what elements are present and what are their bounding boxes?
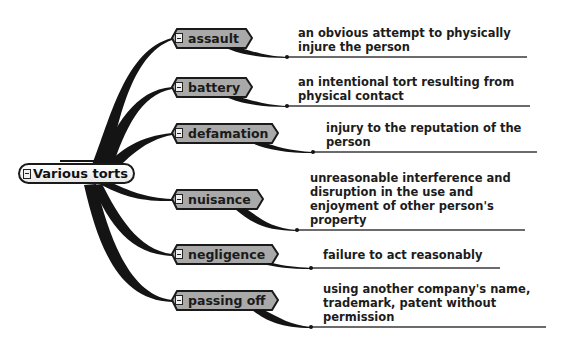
- collapse-minus-icon[interactable]: [175, 82, 183, 92]
- branch-node-battery[interactable]: battery: [172, 78, 252, 97]
- definition-line: an obvious attempt to physically: [298, 26, 511, 40]
- definition-line: unreasonable interference and: [310, 171, 511, 185]
- branch-label: passing off: [188, 291, 265, 310]
- definition-line: injury to the reputation of the: [326, 121, 521, 135]
- root-node[interactable]: Various torts: [18, 163, 135, 184]
- leaf-definition-negligence[interactable]: failure to act reasonably: [323, 248, 482, 262]
- leaf-definition-assault[interactable]: an obvious attempt to physically injure …: [298, 26, 511, 54]
- branch-node-assault[interactable]: assault: [172, 29, 252, 48]
- definition-line: using another company's name,: [323, 282, 530, 296]
- branch-node-negligence[interactable]: negligence: [172, 245, 278, 264]
- definition-line: disruption in the use and: [310, 185, 511, 199]
- definition-line: an intentional tort resulting from: [298, 75, 514, 89]
- definition-line: trademark, patent without: [323, 296, 530, 310]
- definition-line: property: [310, 213, 511, 227]
- collapse-minus-icon[interactable]: [175, 128, 183, 138]
- root-label: Various torts: [33, 166, 128, 181]
- branch-label: assault: [188, 29, 239, 48]
- definition-line: enjoyment of other person's: [310, 199, 511, 213]
- branch-label: defamation: [188, 124, 269, 143]
- collapse-minus-icon[interactable]: [175, 249, 183, 259]
- leaf-definition-defamation[interactable]: injury to the reputation of the person: [326, 121, 521, 149]
- collapse-minus-icon[interactable]: [175, 33, 183, 43]
- definition-line: physical contact: [298, 89, 514, 103]
- branch-label: nuisance: [188, 190, 251, 209]
- leaf-definition-battery[interactable]: an intentional tort resulting from physi…: [298, 75, 514, 103]
- definition-line: injure the person: [298, 40, 511, 54]
- branch-label: negligence: [188, 245, 265, 264]
- branch-node-passing-off[interactable]: passing off: [172, 291, 278, 310]
- definition-line: person: [326, 135, 521, 149]
- definition-line: permission: [323, 310, 530, 324]
- branch-label: battery: [188, 78, 240, 97]
- leaf-definition-nuisance[interactable]: unreasonable interference and disruption…: [310, 171, 511, 227]
- collapse-minus-icon[interactable]: [175, 194, 183, 204]
- definition-line: failure to act reasonably: [323, 248, 482, 262]
- leaf-definition-passing-off[interactable]: using another company's name, trademark,…: [323, 282, 530, 324]
- branch-node-defamation[interactable]: defamation: [172, 124, 278, 143]
- branch-node-nuisance[interactable]: nuisance: [172, 190, 263, 209]
- collapse-minus-icon[interactable]: [23, 169, 31, 179]
- collapse-minus-icon[interactable]: [175, 295, 183, 305]
- child-node-shapes: [172, 29, 278, 310]
